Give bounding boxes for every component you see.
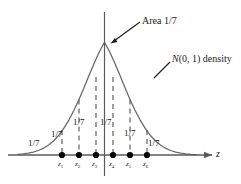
area-fraction-6: 1/7 <box>148 139 160 148</box>
dot-z2 <box>76 152 82 158</box>
tick-label-z3-index: 3 <box>95 164 98 169</box>
area-fraction-3: 1/7 <box>73 118 85 127</box>
density-curve-label: N(0, 1) density <box>172 54 232 64</box>
area-fraction-4: 1/7 <box>100 118 112 127</box>
tick-label-z2: z2 <box>75 161 80 169</box>
tick-label-z3: z3 <box>92 161 97 169</box>
tick-label-z1-index: 1 <box>61 164 64 169</box>
axis-label-z: z <box>216 149 220 159</box>
dot-z1 <box>59 152 65 158</box>
tick-label-z5: z5 <box>126 161 131 169</box>
tick-label-z1: z1 <box>58 161 63 169</box>
dot-z5 <box>127 152 133 158</box>
normal-curve <box>18 42 196 154</box>
density-label-symbol: N <box>172 53 179 64</box>
tick-label-z5-index: 5 <box>129 164 132 169</box>
tick-label-z6: z6 <box>143 161 148 169</box>
figure-canvas <box>0 0 241 184</box>
area-fraction-1: 1/7 <box>28 139 40 148</box>
normal-density-septile-figure: Area 1/7 N(0, 1) density 1/7 1/7 1/7 1/7… <box>0 0 241 184</box>
area-fraction-2: 1/7 <box>51 130 63 139</box>
dot-z6 <box>144 152 150 158</box>
tick-label-z4: z4 <box>109 161 114 169</box>
tick-label-z4-index: 4 <box>112 164 115 169</box>
tick-label-z6-index: 6 <box>146 164 149 169</box>
axis-arrowhead-icon <box>204 152 212 158</box>
tick-label-z2-index: 2 <box>78 164 81 169</box>
area-callout-label: Area 1/7 <box>142 16 177 26</box>
density-label-text: (0, 1) density <box>179 53 232 64</box>
dot-z3 <box>93 152 99 158</box>
density-label-leader <box>154 62 170 78</box>
dot-z4 <box>110 152 116 158</box>
area-callout-leader <box>114 22 140 41</box>
area-fraction-5: 1/7 <box>124 129 136 138</box>
